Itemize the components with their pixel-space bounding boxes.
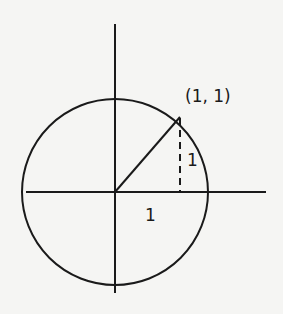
point-label: (1, 1) — [185, 86, 231, 106]
radius-line — [115, 117, 180, 192]
horizontal-leg-label: 1 — [145, 205, 156, 225]
vertical-leg-label: 1 — [187, 150, 198, 170]
diagram-canvas: (1, 1) 1 1 — [0, 0, 283, 314]
